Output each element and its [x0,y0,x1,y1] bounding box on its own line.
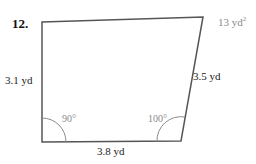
problem-number: 12. [12,16,28,32]
side-right-label: 3.5 yd [193,70,221,82]
angle-90-label: 90° [62,113,76,124]
area-answer: 13 yd2 [218,15,246,28]
angle-100-label: 100° [148,113,167,124]
area-exponent: 2 [243,15,247,23]
side-left-label: 3.1 yd [5,74,33,86]
area-value: 13 yd [218,16,243,28]
side-bottom-label: 3.8 yd [97,145,125,157]
